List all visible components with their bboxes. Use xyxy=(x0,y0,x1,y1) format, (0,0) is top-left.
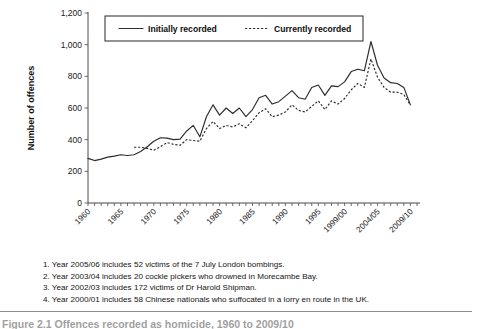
figure-caption: Figure 2.1 Offences recorded as homicide… xyxy=(2,318,476,329)
note-item: 4. Year 2000/01 includes 58 Chinese nati… xyxy=(43,294,463,306)
x-axis-tick-label: 1975 xyxy=(172,207,192,227)
x-axis-tick-label: 1985 xyxy=(238,207,258,227)
y-axis-tick-label: 1,000 xyxy=(61,40,83,50)
x-axis-tick-label: 1999/00 xyxy=(322,207,350,235)
legend-label-initially-recorded: Initially recorded xyxy=(148,24,217,34)
y-axis-tick-label: 800 xyxy=(68,71,82,81)
homicide-offences-line-chart: 02004006008001,0001,200Number of offence… xyxy=(0,0,478,258)
x-axis-tick-label: 1960 xyxy=(73,207,93,227)
figure-panel: 02004006008001,0001,200Number of offence… xyxy=(0,0,478,329)
horizontal-divider xyxy=(0,311,472,312)
y-axis-title: Number of offences xyxy=(26,66,36,151)
y-axis-tick-label: 0 xyxy=(77,198,82,208)
x-axis-tick-label: 1990 xyxy=(271,207,291,227)
x-axis-tick-label: 1965 xyxy=(106,207,126,227)
figure-notes-list: 1. Year 2005/06 includes 52 victims of t… xyxy=(43,259,463,305)
y-axis-tick-label: 200 xyxy=(68,166,82,176)
x-axis-tick-label: 1970 xyxy=(139,207,159,227)
legend-label-currently-recorded: Currently recorded xyxy=(274,24,351,34)
x-axis-tick-label: 1995 xyxy=(303,207,323,227)
x-axis-tick-label: 2009/10 xyxy=(388,207,416,235)
y-axis-tick-label: 600 xyxy=(68,103,82,113)
y-axis-tick-label: 1,200 xyxy=(61,8,83,18)
x-axis-tick-label: 2004/05 xyxy=(355,207,383,235)
x-axis-tick-label: 1980 xyxy=(205,207,225,227)
note-item: 2. Year 2003/04 includes 20 cockle picke… xyxy=(43,271,463,283)
chart-area: 02004006008001,0001,200Number of offence… xyxy=(0,0,478,258)
data-series-solid xyxy=(88,42,410,161)
note-item: 3. Year 2002/03 includes 172 victims of … xyxy=(43,282,463,294)
note-item: 1. Year 2005/06 includes 52 victims of t… xyxy=(43,259,463,271)
y-axis-tick-label: 400 xyxy=(68,135,82,145)
